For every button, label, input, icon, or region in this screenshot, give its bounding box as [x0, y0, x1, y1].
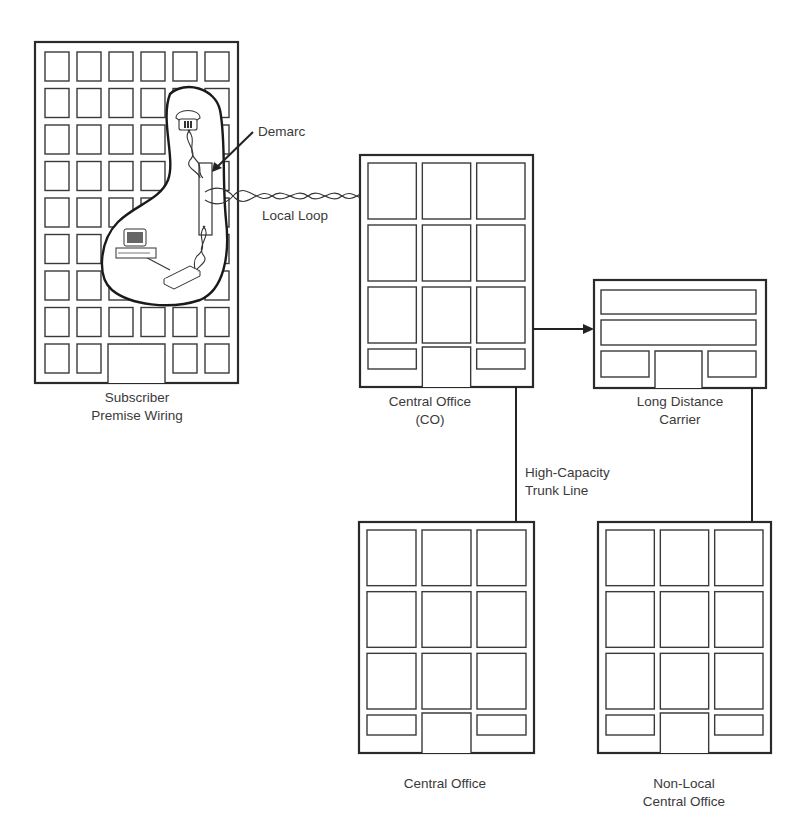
- window: [45, 125, 69, 154]
- window: [173, 344, 197, 373]
- window: [606, 653, 654, 709]
- window: [141, 162, 165, 191]
- long-distance-carrier-building: [594, 280, 766, 388]
- local-loop-label: Local Loop: [262, 208, 328, 223]
- window: [173, 52, 197, 81]
- central-office-building: [360, 155, 533, 387]
- central-office-2-building: [359, 522, 534, 753]
- window: [205, 344, 229, 373]
- window: [477, 592, 526, 648]
- window: [77, 308, 101, 337]
- window: [422, 287, 470, 343]
- window: [606, 592, 654, 648]
- window: [367, 653, 416, 709]
- window: [715, 715, 763, 735]
- window: [45, 271, 69, 300]
- window: [477, 163, 525, 219]
- door: [422, 713, 471, 753]
- window: [477, 287, 525, 343]
- window: [173, 308, 197, 337]
- window: [45, 52, 69, 81]
- window: [715, 592, 763, 648]
- window: [368, 349, 416, 369]
- window: [477, 225, 525, 281]
- window: [660, 530, 708, 586]
- window: [109, 162, 133, 191]
- window: [477, 349, 525, 369]
- window: [422, 530, 471, 586]
- window: [205, 52, 229, 81]
- window: [606, 715, 654, 735]
- window: [141, 308, 165, 337]
- window: [368, 287, 416, 343]
- door: [660, 713, 708, 753]
- window: [367, 530, 416, 586]
- co-label-1: Central Office: [389, 394, 471, 409]
- window: [109, 125, 133, 154]
- window: [77, 125, 101, 154]
- window: [45, 235, 69, 264]
- window: [45, 198, 69, 227]
- window: [660, 592, 708, 648]
- window: [45, 89, 69, 118]
- window: [422, 163, 470, 219]
- window: [477, 653, 526, 709]
- door: [108, 344, 165, 383]
- window: [109, 89, 133, 118]
- trunk-label-2: Trunk Line: [525, 483, 588, 498]
- window: [77, 162, 101, 191]
- co-label-2: (CO): [415, 412, 444, 427]
- window: [715, 653, 763, 709]
- window: [606, 530, 654, 586]
- window: [422, 592, 471, 648]
- trunk-line: High-Capacity Trunk Line: [516, 387, 610, 522]
- window: [77, 344, 101, 373]
- subscriber-label-2: Premise Wiring: [91, 408, 183, 423]
- window: [77, 235, 101, 264]
- window: [477, 715, 526, 735]
- window: [141, 52, 165, 81]
- window: [45, 162, 69, 191]
- co2-label: Central Office: [404, 776, 486, 791]
- co-to-carrier-arrow: [533, 324, 594, 334]
- window: [367, 592, 416, 648]
- window: [109, 308, 133, 337]
- window: [422, 225, 470, 281]
- subscriber-label-1: Subscriber: [105, 390, 170, 405]
- window: [109, 52, 133, 81]
- ld-label-2: Carrier: [659, 412, 701, 427]
- window: [45, 308, 69, 337]
- window: [77, 271, 101, 300]
- trunk-label-1: High-Capacity: [525, 465, 610, 480]
- window: [141, 89, 165, 118]
- window: [715, 530, 763, 586]
- window: [77, 52, 101, 81]
- window: [45, 344, 69, 373]
- nonlocal-label-2: Central Office: [643, 794, 725, 809]
- window: [660, 653, 708, 709]
- window: [141, 125, 165, 154]
- telephone-icon: [176, 111, 200, 131]
- window: [368, 163, 416, 219]
- non-local-co-building: [598, 522, 771, 753]
- window: [77, 198, 101, 227]
- window: [422, 653, 471, 709]
- nonlocal-label-1: Non-Local: [653, 776, 715, 791]
- door: [422, 347, 470, 387]
- ld-label-1: Long Distance: [637, 394, 723, 409]
- window: [205, 308, 229, 337]
- network-diagram: Demarc Local Loop Subscriber Premise Wir…: [0, 0, 802, 826]
- demarc-label: Demarc: [258, 124, 306, 139]
- window: [367, 715, 416, 735]
- window: [368, 225, 416, 281]
- window: [477, 530, 526, 586]
- window: [77, 89, 101, 118]
